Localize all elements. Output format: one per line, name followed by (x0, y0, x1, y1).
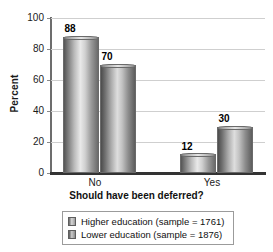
y-tick-label-40: 40 (8, 106, 44, 116)
y-tick-label-60: 60 (8, 75, 44, 85)
x-tick-label-yes: Yes (187, 177, 237, 188)
gridline-100 (51, 18, 265, 19)
bar-top-ellipse-icon (100, 64, 136, 68)
x-axis-title: Should have been deferred? (0, 190, 273, 201)
legend-item-lower-education[interactable]: Lower education (sample = 1876) (68, 228, 228, 241)
y-tick-label-20: 20 (8, 137, 44, 147)
y-tick-label-80: 80 (8, 44, 44, 54)
bar-yes-higher-education[interactable] (180, 154, 216, 173)
legend-swatch-icon (68, 217, 76, 226)
legend-swatch-icon (68, 230, 76, 239)
legend: Higher education (sample = 1761) Lower e… (62, 211, 234, 245)
data-label-yes-higher: 12 (168, 141, 206, 152)
plot-area (51, 18, 265, 173)
bar-chart: Percent 100 80 60 40 20 0 (0, 0, 273, 252)
legend-item-higher-education[interactable]: Higher education (sample = 1761) (68, 215, 228, 228)
data-label-no-lower: 70 (88, 51, 126, 62)
bar-top-ellipse-icon (63, 36, 99, 40)
bar-yes-lower-education[interactable] (217, 127, 253, 174)
legend-label-higher-education: Higher education (sample = 1761) (81, 216, 224, 227)
legend-label-lower-education: Lower education (sample = 1876) (81, 229, 222, 240)
x-tick-label-no: No (70, 177, 120, 188)
data-label-yes-lower: 30 (205, 113, 243, 124)
bar-top-ellipse-icon (217, 126, 253, 130)
bar-top-ellipse-icon (180, 153, 216, 157)
data-label-no-higher: 88 (51, 23, 89, 34)
y-tick-label-0: 0 (8, 168, 44, 178)
bar-no-lower-education[interactable] (100, 65, 136, 174)
y-tick-label-100: 100 (8, 13, 44, 23)
